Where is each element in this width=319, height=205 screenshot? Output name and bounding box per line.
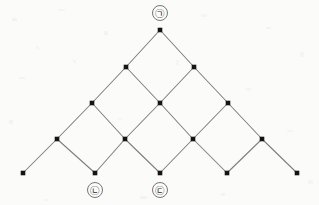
lattice-node [226,101,231,106]
lattice-node [90,101,95,106]
lattice-node [225,171,230,176]
node-label-text: ㉠ [155,8,165,19]
lattice-node [124,65,129,70]
lattice-node [192,65,197,70]
lattice-node [158,101,163,106]
lattice-figure: ㉠㉡㉢ [0,0,319,205]
lattice-node [21,171,26,176]
lattice-edge [194,67,228,103]
lattice-node [158,171,163,176]
lattice-edge [228,103,262,139]
lattice-edge [126,67,160,103]
lattice-edge [57,103,92,139]
lattice-node [123,137,128,142]
lattice-edge [262,139,297,173]
lattice-edge [125,139,160,173]
lattice-node [295,171,300,176]
node-group [21,28,300,176]
lattice-graph: ㉠㉡㉢ [0,0,319,205]
lattice-node [260,137,265,142]
lattice-node [93,171,98,176]
lattice-edge [160,30,194,67]
lattice-edge [57,139,95,173]
lattice-edge [92,103,125,139]
lattice-node [55,137,60,142]
lattice-edge [23,139,57,173]
lattice-edge [160,103,193,139]
node-label-text: ㉡ [90,185,100,196]
lattice-edge [125,103,160,139]
lattice-node [191,137,196,142]
lattice-edge [193,103,228,139]
lattice-edge [92,67,126,103]
lattice-edge [160,67,194,103]
lattice-edge [126,30,160,67]
lattice-edge [193,139,227,173]
lattice-edge [95,139,125,173]
lattice-edge [160,139,193,173]
lattice-edge [227,139,262,173]
lattice-node [158,28,163,33]
node-label-text: ㉢ [155,185,165,196]
